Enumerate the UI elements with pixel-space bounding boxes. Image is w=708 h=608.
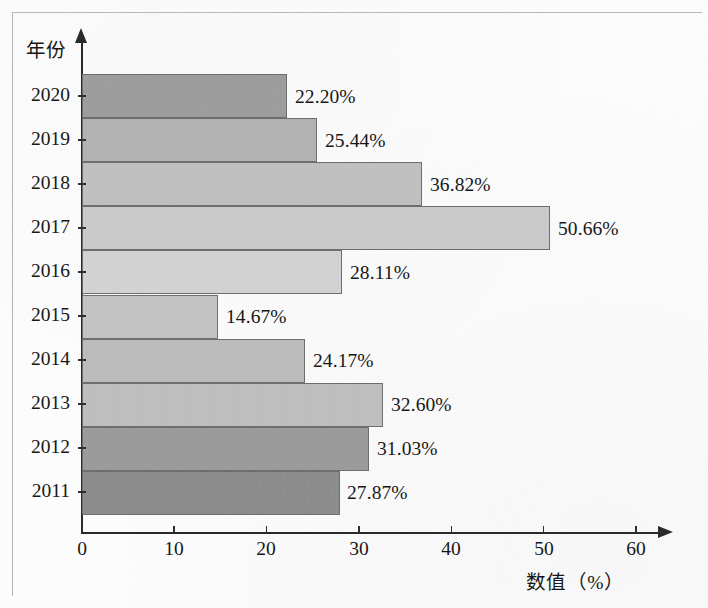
x-tick-40 (451, 526, 452, 533)
y-axis-arrow-icon (75, 28, 87, 43)
value-label-2013: 32.60% (391, 394, 452, 416)
x-axis-line (81, 532, 662, 534)
value-label-2014: 24.17% (313, 350, 374, 372)
y-tick-2019 (78, 139, 86, 141)
bar-2019 (82, 118, 317, 162)
year-label-2018: 2018 (12, 172, 70, 194)
year-label-2011: 2011 (12, 480, 70, 502)
bar-2014 (82, 339, 305, 383)
y-axis-title: 年份 (26, 34, 66, 63)
x-tick-20 (266, 526, 267, 533)
x-tick-label-20: 20 (246, 538, 286, 560)
value-label-2018: 36.82% (430, 174, 491, 196)
bar-2016 (82, 250, 342, 294)
x-tick-label-10: 10 (154, 538, 194, 560)
bar-2020 (82, 74, 287, 118)
bar-2012 (82, 427, 369, 471)
y-tick-2017 (78, 227, 86, 229)
year-label-2020: 2020 (12, 84, 70, 106)
bar-chart-figure: 年份 数值（%） 22.20% 25.44% 36.82% 50.66% 28.… (0, 0, 708, 608)
value-label-2017: 50.66% (558, 218, 619, 240)
x-tick-0 (81, 526, 82, 533)
x-tick-30 (358, 526, 359, 533)
bar-2011 (82, 471, 340, 515)
value-label-2019: 25.44% (325, 130, 386, 152)
x-tick-label-40: 40 (431, 538, 471, 560)
y-tick-2015 (78, 315, 86, 317)
year-label-2012: 2012 (12, 436, 70, 458)
bar-2015 (82, 295, 218, 339)
value-label-2016: 28.11% (350, 262, 410, 284)
value-label-2020: 22.20% (295, 86, 356, 108)
x-tick-60 (635, 526, 636, 533)
y-tick-2020 (78, 95, 86, 97)
value-label-2015: 14.67% (226, 306, 287, 328)
year-label-2016: 2016 (12, 260, 70, 282)
y-tick-2012 (78, 447, 86, 449)
x-tick-label-0: 0 (62, 538, 102, 560)
x-tick-50 (543, 526, 544, 533)
y-tick-2013 (78, 403, 86, 405)
year-label-2019: 2019 (12, 128, 70, 150)
value-label-2011: 27.87% (347, 482, 408, 504)
y-tick-2014 (78, 359, 86, 361)
x-axis-arrow-icon (658, 526, 673, 538)
x-tick-label-60: 60 (616, 538, 656, 560)
year-label-2013: 2013 (12, 392, 70, 414)
plot-area: 年份 数值（%） 22.20% 25.44% 36.82% 50.66% 28.… (0, 0, 708, 608)
value-label-2012: 31.03% (377, 438, 438, 460)
bar-2013 (82, 383, 383, 427)
year-label-2017: 2017 (12, 216, 70, 238)
x-tick-10 (173, 526, 174, 533)
bar-2018 (82, 162, 422, 206)
y-tick-2011 (78, 491, 86, 493)
x-axis-title: 数值（%） (526, 566, 624, 595)
x-tick-label-50: 50 (524, 538, 564, 560)
year-label-2015: 2015 (12, 304, 70, 326)
bar-2017 (82, 206, 550, 250)
year-label-2014: 2014 (12, 348, 70, 370)
y-tick-2018 (78, 183, 86, 185)
y-tick-2016 (78, 271, 86, 273)
x-tick-label-30: 30 (339, 538, 379, 560)
